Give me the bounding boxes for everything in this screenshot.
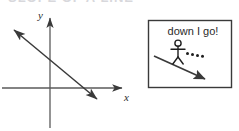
motion-dot — [191, 53, 194, 56]
x-axis-label: x — [124, 92, 129, 103]
figure-root: SLOPE OF A LINE — [0, 0, 239, 131]
coordinate-graph — [2, 18, 122, 128]
motion-dot — [196, 54, 199, 57]
y-axis-label: y — [38, 10, 43, 21]
motion-dot — [186, 52, 189, 55]
motion-dot — [201, 55, 204, 58]
callout-text: down I go! — [156, 25, 230, 37]
figure-canvas — [0, 0, 239, 131]
